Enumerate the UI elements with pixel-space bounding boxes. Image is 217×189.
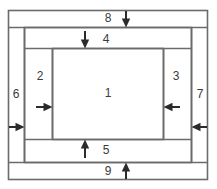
arrow-right-outer-left-icon [192, 123, 208, 131]
region-label-3: 3 [170, 70, 182, 82]
diagram-canvas: 8 4 6 2 1 3 7 5 9 [0, 0, 217, 189]
arrow-left-outer-right-icon [9, 123, 25, 131]
arrow-top-outer-down-icon [122, 11, 130, 28]
region-label-6: 6 [10, 88, 22, 100]
region-label-8: 8 [102, 12, 114, 24]
arrow-bottom-outer-up-icon [122, 163, 130, 180]
region-label-2: 2 [34, 70, 46, 82]
region-label-5: 5 [100, 144, 112, 156]
region-label-7: 7 [194, 88, 206, 100]
arrow-right-inner-left-icon [164, 103, 181, 111]
arrow-top-inner-down-icon [81, 31, 89, 49]
region-label-9: 9 [102, 165, 114, 177]
region-label-1: 1 [102, 87, 114, 99]
arrow-bottom-inner-up-icon [81, 140, 89, 159]
region-label-4: 4 [100, 33, 112, 45]
arrow-left-inner-right-icon [36, 103, 53, 111]
